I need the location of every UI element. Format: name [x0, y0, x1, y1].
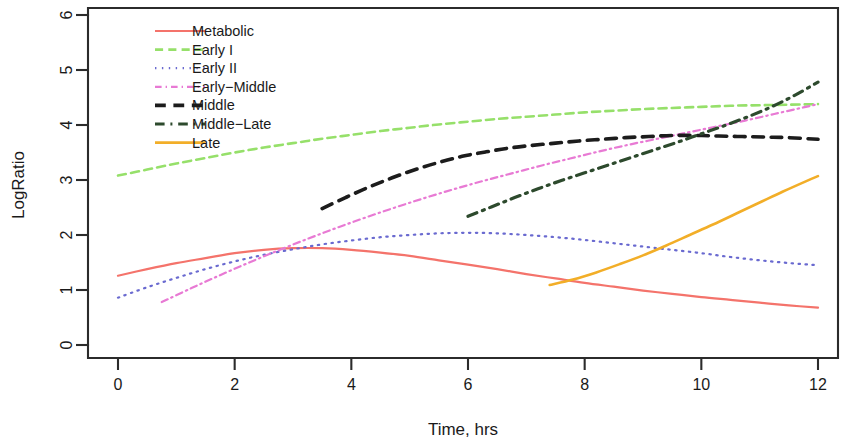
- x-tick-label: 0: [114, 376, 123, 393]
- x-tick-label: 12: [809, 376, 827, 393]
- y-tick-label: 1: [58, 285, 75, 294]
- x-tick-label: 2: [230, 376, 239, 393]
- series-line-early-i: [118, 104, 818, 176]
- y-tick-label: 5: [58, 65, 75, 74]
- legend-label: Metabolic: [192, 23, 254, 39]
- chart-figure: 0123456024681012 MetabolicEarly IEarly I…: [0, 0, 843, 447]
- x-tick-label: 4: [347, 376, 356, 393]
- series-line-middle-late: [468, 82, 818, 216]
- y-tick-label: 0: [58, 340, 75, 349]
- series-line-metabolic: [118, 248, 818, 308]
- chart-legend: MetabolicEarly IEarly IIEarly−MiddleMidd…: [155, 23, 276, 151]
- x-tick-label: 10: [692, 376, 710, 393]
- legend-label: Early I: [192, 42, 233, 58]
- x-tick-label: 6: [464, 376, 473, 393]
- series-line-early-middle: [162, 104, 818, 302]
- line-chart: 0123456024681012 MetabolicEarly IEarly I…: [0, 0, 843, 447]
- x-axis-title: Time, hrs: [428, 420, 498, 439]
- series-line-middle: [322, 135, 818, 208]
- y-axis-title: LogRatio: [9, 151, 28, 219]
- legend-label: Early−Middle: [192, 79, 276, 95]
- y-tick-label: 4: [58, 120, 75, 129]
- y-tick-label: 6: [58, 10, 75, 19]
- legend-label: Middle: [192, 97, 235, 113]
- y-tick-label: 3: [58, 175, 75, 184]
- legend-label: Middle−Late: [192, 116, 271, 132]
- legend-label: Early II: [192, 60, 237, 76]
- series-line-late: [550, 176, 818, 285]
- y-tick-label: 2: [58, 230, 75, 239]
- axis-layer: 0123456024681012: [58, 8, 839, 393]
- x-tick-label: 8: [580, 376, 589, 393]
- legend-label: Late: [192, 135, 220, 151]
